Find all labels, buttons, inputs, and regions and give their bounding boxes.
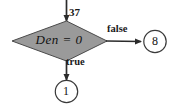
input-edge-label: 37 [69, 7, 80, 18]
flowchart-canvas [0, 0, 174, 108]
flowchart-diagram: 37 false true Den = 0 8 1 [0, 0, 174, 108]
false-branch-edge [106, 41, 141, 42]
false-branch-label: false [107, 24, 127, 35]
decision-condition-text: Den = 0 [12, 33, 106, 46]
terminal-node-1-label: 1 [55, 85, 77, 97]
terminal-node-8-label: 8 [144, 35, 166, 47]
true-branch-label: true [66, 57, 85, 68]
